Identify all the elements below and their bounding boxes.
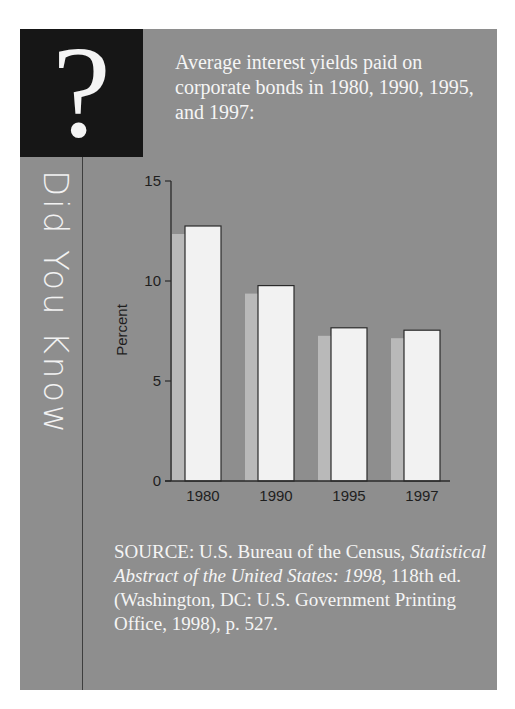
bar-shadow bbox=[318, 336, 331, 481]
x-tick-label: 1990 bbox=[259, 487, 292, 504]
y-tick-label: 5 bbox=[153, 372, 161, 389]
divider-line bbox=[82, 157, 83, 690]
x-tick-label: 1980 bbox=[186, 487, 219, 504]
source-prefix: SOURCE: U.S. Bureau of the Census, bbox=[114, 541, 410, 562]
y-tick-label: 15 bbox=[144, 172, 161, 189]
bar-shadow bbox=[391, 338, 404, 481]
y-tick-label: 0 bbox=[153, 472, 161, 489]
bar-shadow bbox=[172, 234, 185, 481]
x-tick-label: 1995 bbox=[332, 487, 365, 504]
bar-1997 bbox=[404, 330, 440, 481]
x-tick-label: 1997 bbox=[405, 487, 438, 504]
bar-1980 bbox=[185, 226, 221, 481]
source-citation: SOURCE: U.S. Bureau of the Census, Stati… bbox=[114, 540, 494, 636]
question-box: ? bbox=[20, 29, 143, 157]
question-mark-icon: ? bbox=[20, 17, 143, 167]
intro-text: Average interest yields paid on corporat… bbox=[175, 50, 495, 125]
chart-canvas: 1980199019951997051015Percent bbox=[100, 170, 480, 510]
bar-shadow bbox=[245, 294, 258, 481]
bar-1995 bbox=[331, 328, 367, 481]
bar-1990 bbox=[258, 286, 294, 481]
y-tick-label: 10 bbox=[144, 272, 161, 289]
y-axis-label: Percent bbox=[113, 303, 130, 356]
bar-chart: 1980199019951997051015Percent bbox=[100, 170, 480, 510]
sidebar-vertical-title: Did You Know bbox=[30, 168, 70, 498]
did-you-know-label: Did You Know bbox=[36, 170, 76, 436]
